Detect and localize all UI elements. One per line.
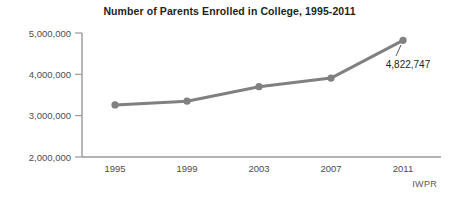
line-chart-plot: 5,000,000 4,000,000 3,000,000 2,000,000 … xyxy=(0,0,459,199)
x-axis-label-1995: 1995 xyxy=(104,163,125,174)
x-axis-label-2003: 2003 xyxy=(248,163,269,174)
y-axis-label-4000000: 4,000,000 xyxy=(29,69,71,80)
x-axis-label-2007: 2007 xyxy=(320,163,341,174)
source-attribution: IWPR xyxy=(412,179,437,189)
y-axis-label-2000000: 2,000,000 xyxy=(29,152,71,163)
x-axis-label-1999: 1999 xyxy=(176,163,197,174)
data-point-2007 xyxy=(327,75,334,82)
value-label-leader-line xyxy=(396,45,401,56)
data-value-label-2011: 4,822,747 xyxy=(386,59,431,70)
data-point-markers xyxy=(111,37,406,109)
data-point-1999 xyxy=(183,98,190,105)
data-point-2011 xyxy=(399,37,406,44)
data-point-2003 xyxy=(255,83,262,90)
x-axis-label-2011: 2011 xyxy=(393,163,413,174)
y-axis-label-3000000: 3,000,000 xyxy=(29,110,71,121)
y-axis-ticks xyxy=(75,33,82,157)
data-point-1995 xyxy=(111,101,118,108)
data-line-series xyxy=(115,40,403,105)
y-axis-label-5000000: 5,000,000 xyxy=(29,28,71,39)
chart-container: Number of Parents Enrolled in College, 1… xyxy=(0,0,459,199)
